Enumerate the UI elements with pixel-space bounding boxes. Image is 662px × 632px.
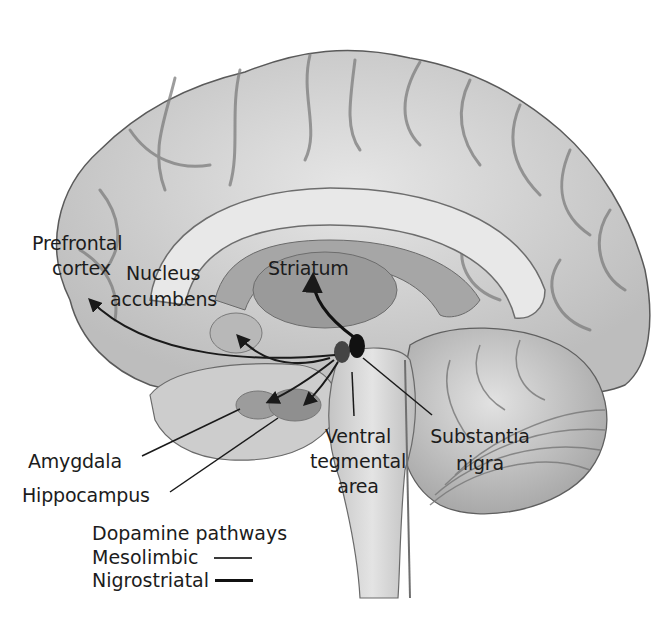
legend-item-mesolimbic: Mesolimbic xyxy=(92,546,287,569)
label-nucleus-accumbens-line1: Nucleus xyxy=(126,262,200,284)
label-striatum: Striatum xyxy=(268,257,349,279)
label-hippocampus: Hippocampus xyxy=(22,484,150,506)
label-ventral-tegmental-area-line1: Ventral xyxy=(308,425,408,447)
label-nucleus-accumbens-line2: accumbens xyxy=(110,288,217,310)
label-prefrontal-cortex-line2: cortex xyxy=(52,257,111,279)
legend-title: Dopamine pathways xyxy=(92,521,287,546)
vta-nucleus xyxy=(334,341,350,363)
nigrostriatal-line-swatch-icon xyxy=(215,579,253,582)
brainstem xyxy=(329,348,416,598)
label-amygdala: Amygdala xyxy=(28,450,122,472)
label-ventral-tegmental-area-line2: tegmental xyxy=(308,450,408,472)
legend: Dopamine pathways Mesolimbic Nigrostriat… xyxy=(92,521,287,592)
label-substantia-nigra-line2: nigra xyxy=(425,452,535,474)
legend-label-mesolimbic: Mesolimbic xyxy=(92,546,198,569)
cerebellum xyxy=(399,328,607,514)
hippocampus-region xyxy=(269,389,321,421)
substantia-nigra-nucleus xyxy=(349,334,365,358)
label-prefrontal-cortex-line1: Prefrontal xyxy=(32,232,122,254)
legend-label-nigrostriatal: Nigrostriatal xyxy=(92,569,209,592)
legend-item-nigrostriatal: Nigrostriatal xyxy=(92,569,287,592)
label-substantia-nigra-line1: Substantia xyxy=(425,425,535,447)
label-ventral-tegmental-area-line3: area xyxy=(308,475,408,497)
mesolimbic-line-swatch-icon xyxy=(214,557,252,559)
dopamine-pathways-figure: Prefrontal cortex Nucleus accumbens Stri… xyxy=(0,0,662,632)
